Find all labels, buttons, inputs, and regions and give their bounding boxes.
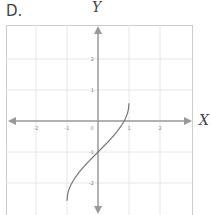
x-axis-left-arrow-icon [8,117,16,125]
y-tick-label: 2 [91,56,94,62]
y-axis-up-arrow-icon [94,26,102,34]
x-tick-label: 0 [90,125,93,131]
x-tick-label: 1 [127,125,130,131]
x-tick-label: 2 [158,125,161,131]
x-axis-right-arrow-icon [184,117,192,125]
x-tick-label: -2 [34,125,39,131]
x-tick-label: -1 [65,125,70,131]
y-axis-down-arrow-icon [94,206,102,214]
y-tick-label: -2 [89,180,94,186]
y-tick-label: 1 [91,87,94,93]
y-tick-label: -1 [89,149,94,155]
graph-plot: -2-101221-1-2 [0,0,211,215]
